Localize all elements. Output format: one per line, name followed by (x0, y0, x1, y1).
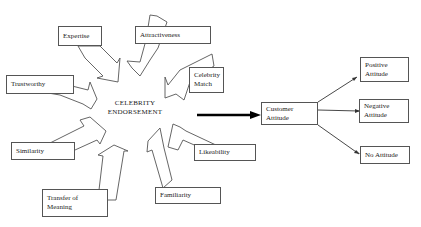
expertise-arrow (78, 46, 120, 82)
center-label-line1: CELEBRITY (105, 99, 165, 108)
outcome-none-label: No Attitude (365, 151, 398, 160)
attractiveness-arrow (127, 15, 167, 76)
outcome-negative-line1: Negative (364, 102, 389, 111)
factor-trustworthy-label: Trustworthy (11, 80, 45, 89)
connector-positive-head (352, 77, 357, 81)
factor-trustworthy: Trustworthy (6, 75, 74, 94)
factor-attractiveness: Attractiveness (135, 26, 211, 44)
center-label: CELEBRITY ENDORSEMENT (105, 99, 165, 117)
factor-celebrity-match-line2: Match (194, 80, 212, 89)
factor-attractiveness-label: Attractiveness (140, 31, 180, 40)
factor-celebrity-match: Celebrity Match (189, 67, 224, 93)
outcome-negative: Negative Attitude (359, 99, 409, 123)
factor-celebrity-match-line1: Celebrity (194, 71, 220, 80)
factor-expertise-label: Expertise (63, 32, 89, 41)
familiarity-arrow (147, 128, 172, 188)
factor-similarity: Similarity (11, 142, 75, 160)
outcome-positive-line2: Attitude (365, 70, 388, 79)
connector-positive (318, 77, 357, 102)
factor-transfer-line1: Transfer of (47, 194, 78, 203)
connector-none (318, 125, 359, 154)
factor-similarity-label: Similarity (16, 147, 44, 156)
customer-attitude-line2: Attitude (266, 114, 289, 123)
factor-transfer-of-meaning: Transfer of Meaning (42, 189, 108, 217)
factor-likeability: Likeability (194, 144, 256, 161)
customer-attitude-box: Customer Attitude (261, 102, 318, 125)
outcome-negative-line2: Attitude (364, 111, 387, 120)
factor-likeability-label: Likeability (199, 148, 230, 157)
center-label-line2: ENDORSEMENT (105, 108, 165, 117)
outcome-none: No Attitude (360, 146, 410, 164)
factor-expertise: Expertise (58, 26, 102, 46)
outcome-positive-line1: Positive (365, 61, 388, 70)
connector-negative (318, 110, 359, 111)
customer-attitude-line1: Customer (266, 105, 293, 114)
factor-familiarity-label: Familiarity (160, 191, 191, 200)
factor-familiarity: Familiarity (155, 187, 221, 204)
factor-transfer-line2: Meaning (47, 203, 72, 212)
main-arrow-head (250, 111, 261, 119)
outcome-positive: Positive Attitude (360, 57, 409, 82)
